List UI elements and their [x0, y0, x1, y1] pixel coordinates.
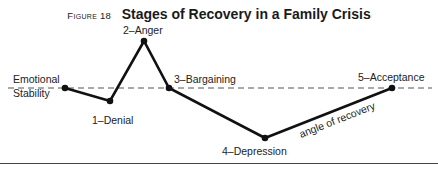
- stage-label-anger: 2–Anger: [123, 24, 163, 36]
- baseline-label-line2: Stability: [13, 87, 51, 99]
- point-acceptance: [389, 85, 396, 92]
- point-denial: [107, 98, 114, 105]
- point-start: [62, 85, 69, 92]
- recovery-diagram: Emotional Stability 1–Denial 2–Anger 3–B…: [0, 0, 438, 170]
- point-depression: [262, 135, 269, 142]
- point-bargaining: [166, 85, 173, 92]
- point-anger: [141, 38, 148, 45]
- stage-label-bargaining: 3–Bargaining: [174, 73, 236, 85]
- baseline-label-line1: Emotional: [13, 73, 60, 85]
- stage-label-depression: 4–Depression: [222, 145, 287, 157]
- stage-label-denial: 1–Denial: [92, 114, 133, 126]
- stage-label-acceptance: 5–Acceptance: [358, 71, 425, 83]
